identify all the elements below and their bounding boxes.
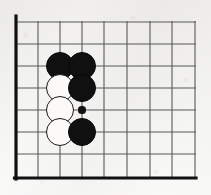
go-board-diagram (0, 0, 211, 195)
black-stone-d6 (68, 118, 96, 146)
grid-horizontal-lines (16, 22, 196, 178)
black-stone-d4 (68, 74, 96, 102)
board-grid (0, 0, 211, 195)
star-point-d5 (78, 106, 85, 113)
